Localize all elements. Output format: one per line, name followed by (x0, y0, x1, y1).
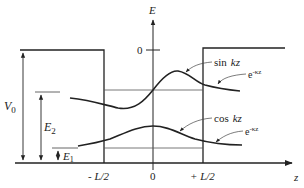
cos-func: cos (214, 112, 229, 124)
v0-subscript: 0 (11, 105, 16, 115)
z-axis-label: z (293, 171, 299, 183)
cos-wavefunction-curve (78, 126, 242, 146)
cos-exp-label-leader (216, 131, 243, 142)
tick-zero: 0 (150, 170, 156, 182)
e2-subscript: 2 (51, 126, 56, 136)
v0-label: V0 (4, 99, 16, 115)
tick-plus-half-l: + L/2 (190, 170, 215, 182)
cos-label-leader (180, 118, 212, 131)
energy-zero-label: 0 (137, 44, 143, 56)
sin-label-leader (186, 62, 212, 72)
square-well-diagram: E 0 V0 E2 E1 sinkz e-κz coskz e-κz - L/2… (0, 0, 304, 188)
e1-label: E1 (62, 150, 74, 164)
energy-axis-label: E (148, 4, 156, 16)
sin-arg: kz (231, 56, 241, 68)
sin-exp-power: -κz (252, 68, 261, 76)
e2-label: E2 (43, 120, 56, 136)
cos-kz-label: coskz (214, 112, 243, 124)
tick-minus-half-l: - L/2 (88, 170, 110, 182)
cos-exp-power: -κz (249, 125, 258, 133)
cos-exp-label: e-κz (245, 125, 258, 137)
e1-subscript: 1 (70, 155, 74, 164)
sin-exp-label: e-κz (248, 68, 261, 80)
sin-exp-label-leader (218, 74, 246, 84)
cos-arg: kz (233, 112, 243, 124)
sin-func: sin (214, 56, 227, 68)
sin-kz-label: sinkz (214, 56, 241, 68)
